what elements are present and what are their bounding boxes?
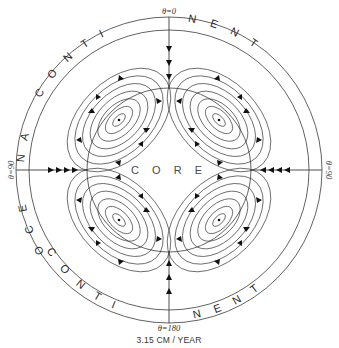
cell-center-dot-sw	[118, 219, 121, 222]
convection-diagram: C O N T I N E N T C O N T I N E N T N A …	[0, 0, 339, 348]
velocity-scale-label: 3.15 CM / YEAR	[136, 335, 201, 345]
label-continent-top-left: C O N T I	[32, 25, 110, 99]
label-continent-top-left-text: C O N T I	[32, 25, 110, 99]
angle-label-theta-90-left: θ=90	[6, 160, 16, 179]
cell-center-dot-se	[218, 219, 221, 222]
cell-center-dot-nw	[118, 119, 121, 122]
label-continent-top-right-text: N E N T	[187, 12, 264, 53]
cell-center-dot-ne	[218, 119, 221, 122]
convection-svg: C O N T I N E N T C O N T I N E N T N A …	[0, 0, 339, 348]
label-continent-top-right: N E N T	[187, 12, 264, 53]
label-continent-bottom-right: N E N T	[192, 278, 265, 320]
angle-label-theta-90-right: θ=90	[324, 161, 334, 180]
core-label: C O R E	[131, 164, 207, 176]
angle-label-theta-0: θ=0	[162, 6, 177, 16]
angle-label-theta-180: θ=180	[158, 323, 181, 333]
label-continent-bottom-right-text: N E N T	[192, 278, 265, 320]
